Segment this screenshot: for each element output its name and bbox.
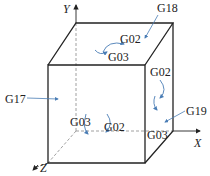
g18-label: G18 — [157, 1, 178, 15]
g17-pointer — [27, 98, 58, 99]
axes — [33, 5, 200, 170]
g17-label: G17 — [5, 92, 26, 106]
z-axis-hidden-segment — [48, 131, 76, 163]
plane-selection-diagram: Y X Z G18 G17 G19 G02 G03 G03 G02 G02 G0… — [0, 0, 210, 176]
right-face-g03-label: G03 — [147, 128, 168, 142]
right-face-g02-label: G02 — [150, 65, 171, 79]
z-axis-label: Z — [40, 161, 47, 175]
front-face-g02-label: G02 — [104, 120, 125, 134]
g19-pointer — [165, 111, 185, 122]
right-face-g03-arc — [154, 96, 157, 110]
front-face — [48, 65, 145, 163]
right-face-g02-arc — [160, 80, 164, 98]
g19-label: G19 — [186, 104, 207, 118]
front-face-g03-label: G03 — [70, 115, 91, 129]
g18-pointer — [145, 15, 158, 38]
top-face-g02-label: G02 — [120, 32, 141, 46]
x-axis-label: X — [193, 136, 202, 150]
top-face-g03-label: G03 — [108, 50, 129, 64]
y-axis-label: Y — [63, 2, 71, 16]
z-axis-arrow — [33, 165, 38, 170]
top-face-g03-arc — [95, 50, 107, 54]
